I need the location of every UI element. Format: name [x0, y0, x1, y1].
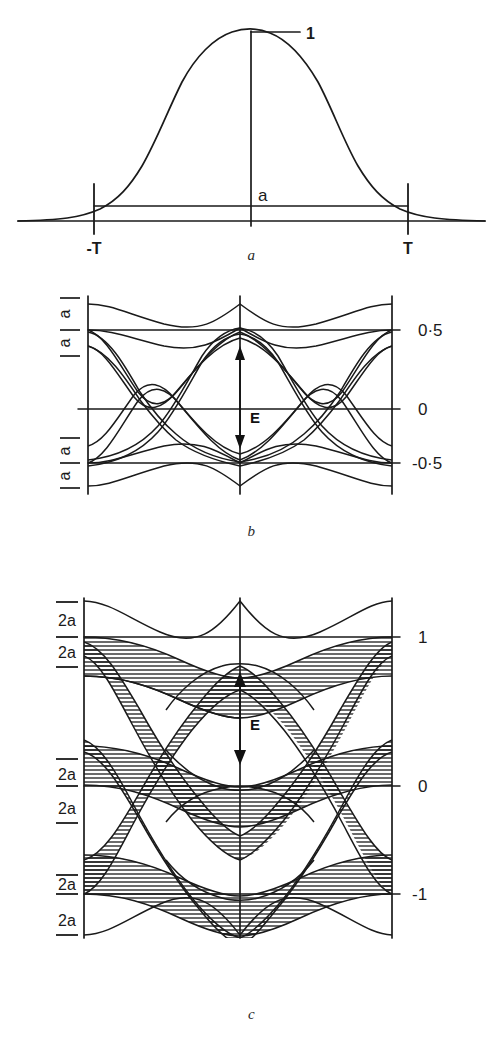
- panel-caption-b: b: [0, 523, 503, 540]
- bracket-label-c-5: 2a: [58, 876, 76, 893]
- y-axis-label-b-minus-half: -0·5: [412, 454, 442, 473]
- bracket-label-b-1: a: [56, 309, 73, 318]
- bracket-label-b-3: a: [56, 446, 73, 455]
- panel-caption-a: a: [0, 247, 503, 264]
- peak-value-label: 1: [306, 25, 315, 42]
- left-brackets-b: [60, 298, 80, 488]
- y-axis-label-c-plus-one: 1: [418, 628, 427, 647]
- bracket-label-c-3: 2a: [58, 766, 76, 783]
- panel-c: E 2a 2a 2a 2a 2a 2a 1 0 -1: [0, 560, 503, 1043]
- panel-c-plot: E 2a 2a 2a 2a 2a 2a 1 0 -1: [0, 560, 503, 1043]
- eye-opening-label-b: E: [250, 409, 260, 426]
- panel-caption-c: c: [0, 1006, 503, 1023]
- bracket-label-c-1: 2a: [58, 612, 76, 629]
- panel-a-plot: 1 a -T T: [0, 0, 503, 275]
- y-axis-label-b-plus-half: 0·5: [418, 321, 443, 340]
- level-a-label: a: [258, 186, 268, 205]
- y-axis-label-c-zero: 0: [418, 777, 427, 796]
- bracket-label-c-2: 2a: [58, 644, 76, 661]
- panel-b-plot: E a a a a 0·5 0 -0·5: [0, 280, 503, 555]
- panel-a: 1 a -T T a: [0, 0, 503, 275]
- bracket-label-c-6: 2a: [58, 912, 76, 929]
- eye-opening-label-c: E: [250, 716, 260, 733]
- y-axis-label-c-minus-one: -1: [412, 885, 427, 904]
- bracket-label-b-2: a: [56, 338, 73, 347]
- panel-b: E a a a a 0·5 0 -0·5 b: [0, 280, 503, 555]
- bracket-label-c-4: 2a: [58, 800, 76, 817]
- eye-height-arrow-b: [235, 346, 245, 449]
- figure-root: 1 a -T T a: [0, 0, 503, 1043]
- y-axis-label-b-zero: 0: [418, 400, 427, 419]
- bracket-label-b-4: a: [56, 471, 73, 480]
